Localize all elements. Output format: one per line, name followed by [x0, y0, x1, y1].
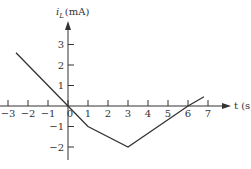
chart: −3−2−101234567 −2−1123 t (s) iL(mA): [0, 0, 251, 169]
y-ticks: −2−1123: [49, 39, 74, 153]
y-axis-title-sub: L: [58, 12, 64, 20]
x-tick-label: 6: [185, 108, 191, 119]
x-axis-arrow-icon: [222, 103, 231, 109]
y-tick-label: −2: [49, 142, 64, 153]
y-axis: [65, 21, 71, 160]
current-series-line: [16, 53, 204, 147]
y-tick-label: 1: [58, 80, 64, 91]
y-tick-label: 2: [58, 60, 64, 71]
x-tick-label: 5: [165, 108, 171, 119]
x-tick-label: 2: [105, 108, 111, 119]
x-ticks: −3−2−101234567: [1, 100, 212, 119]
y-tick-label: 3: [58, 39, 64, 50]
x-tick-label: 7: [205, 108, 211, 119]
x-tick-label: 4: [145, 108, 151, 119]
y-axis-title-unit: (mA): [65, 6, 90, 17]
x-tick-label: 1: [85, 108, 91, 119]
x-tick-label: −2: [21, 108, 36, 119]
x-tick-label: −3: [1, 108, 16, 119]
y-axis-title: iL(mA): [56, 6, 89, 20]
x-axis-title: t (s): [234, 100, 251, 111]
y-axis-arrow-icon: [65, 21, 71, 30]
x-tick-label: 3: [125, 108, 131, 119]
x-tick-label: −1: [41, 108, 56, 119]
y-tick-label: −1: [49, 121, 64, 132]
